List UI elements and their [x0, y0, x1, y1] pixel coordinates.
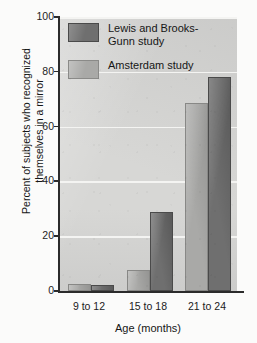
legend: Lewis and Brooks- Gunn study Amsterdam s…: [68, 22, 233, 91]
legend-label-amsterdam: Amsterdam study: [108, 59, 194, 72]
x-category-label-21to24: 21 to 24: [177, 300, 237, 312]
y-axis-title: Percent of subjects who recognized thems…: [20, 6, 46, 256]
legend-item-lewis: Lewis and Brooks- Gunn study: [68, 22, 233, 47]
bar-amsterdam-21to24: [185, 103, 208, 291]
x-axis-line: [58, 291, 244, 293]
y-tick-60: [54, 126, 58, 128]
legend-label-lewis: Lewis and Brooks- Gunn study: [108, 22, 199, 47]
y-tick-40: [54, 180, 58, 182]
bar-lewis-21to24: [208, 77, 231, 291]
legend-swatch-light: [68, 60, 99, 79]
legend-swatch-dark: [68, 23, 99, 42]
bar-amsterdam-9to12: [68, 284, 91, 292]
y-axis-line: [58, 16, 60, 292]
legend-item-amsterdam: Amsterdam study: [68, 59, 233, 79]
bar-amsterdam-15to18: [127, 270, 150, 291]
y-tick-100: [54, 16, 58, 18]
y-tick-80: [54, 71, 58, 73]
x-category-label-15to18: 15 to 18: [118, 300, 178, 312]
y-tick-label-0: 0: [26, 285, 54, 296]
y-tick-0: [54, 290, 58, 292]
x-axis-title: Age (months): [59, 322, 237, 334]
gridline-100: [59, 17, 237, 19]
plot-area: Lewis and Brooks- Gunn study Amsterdam s…: [59, 17, 237, 291]
x-category-label-9to12: 9 to 12: [59, 300, 119, 312]
bar-chart-figure: Lewis and Brooks- Gunn study Amsterdam s…: [0, 0, 257, 343]
bar-lewis-15to18: [150, 212, 173, 291]
y-tick-20: [54, 235, 58, 237]
